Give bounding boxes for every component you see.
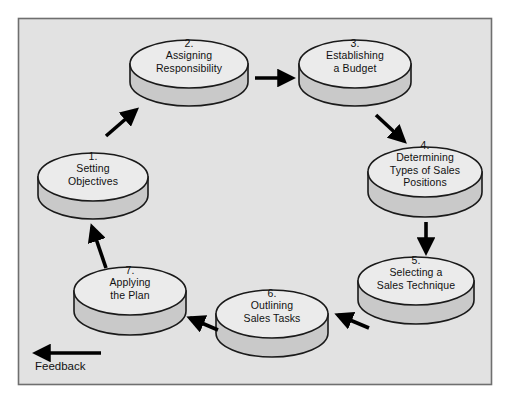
node-shape-assigning-responsibility[interactable] bbox=[130, 40, 248, 106]
diagram-graphics bbox=[0, 0, 512, 401]
node-shape-setting-objectives[interactable] bbox=[38, 153, 148, 219]
node-shape-selecting-a-sales-technique[interactable] bbox=[358, 257, 474, 324]
node-shape-determining-types-of-sales-positions[interactable] bbox=[368, 147, 482, 217]
diagram-canvas: 1. Setting Objectives 2. Assigning Respo… bbox=[0, 0, 512, 401]
node-shape-establishing-a-budget[interactable] bbox=[299, 40, 411, 106]
feedback-label: Feedback bbox=[35, 360, 86, 373]
node-shape-applying-the-plan[interactable] bbox=[74, 267, 186, 335]
node-shape-outlining-sales-tasks[interactable] bbox=[216, 290, 328, 357]
